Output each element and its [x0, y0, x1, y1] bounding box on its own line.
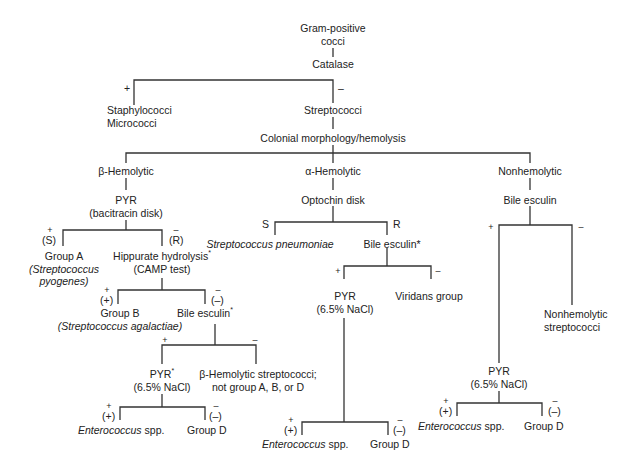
other-beta-line1: β-Hemolytic streptococci;	[199, 368, 316, 380]
staph-line2: Micrococci	[107, 117, 157, 129]
alpha-enterococcus-suffix: spp.	[326, 438, 349, 450]
non-pyr-neg-paren: (–)	[548, 405, 561, 418]
hemolysis-node: Colonial morphology/hemolysis	[260, 132, 405, 145]
non-group-d-node: Group D	[524, 420, 564, 433]
group-a-line3: pyogenes)	[39, 275, 88, 287]
beta-bile-esculin-node: Bile esculin*	[177, 307, 233, 320]
other-beta-strep-node: β-Hemolytic streptococci; not group A, B…	[199, 368, 316, 393]
staphylococci-node: Staphylococci Micrococci	[107, 104, 172, 129]
non-pyr-line1: PYR	[488, 365, 510, 377]
hippurate-line1: Hippurate hydrolysis	[113, 250, 208, 262]
alpha-group-d-node: Group D	[370, 438, 410, 451]
group-a-line1: Group A	[45, 250, 84, 262]
non-enterococcus-genus: Enterococcus	[418, 420, 482, 432]
beta-enterococcus-suffix: spp.	[142, 424, 165, 436]
staph-line1: Staphylococci	[107, 104, 172, 116]
pyr-line1: PYR	[115, 194, 137, 206]
catalase-node: Catalase	[312, 58, 353, 71]
beta-group-d-node: Group D	[187, 424, 227, 437]
non-enterococcus-node: Enterococcus spp.	[418, 420, 504, 433]
alpha-pyr-line1: PYR	[334, 290, 356, 302]
group-b-line2: (Streptococcus agalactiae)	[58, 320, 182, 332]
root-node: Gram-positive cocci	[300, 22, 365, 47]
nonhemolytic-line1: Nonhemolytic	[544, 308, 608, 320]
non-be-pos-sign: +	[488, 222, 493, 232]
catalase-positive-sign: +	[124, 82, 130, 95]
nonhemolytic-line2: streptococci	[544, 321, 600, 333]
catalase-negative-sign: –	[338, 82, 344, 95]
optochin-r-label: R	[393, 218, 401, 231]
beta-pyr-neg-paren: (–)	[209, 410, 222, 423]
optochin-s-label: S	[262, 218, 269, 231]
alpha-be-pos-sign: +	[335, 266, 340, 276]
pyr-line2: (bacitracin disk)	[89, 207, 163, 219]
viridans-node: Viridans group	[395, 290, 463, 303]
be-neg-sign: –	[252, 335, 257, 345]
non-bile-esculin-node: Bile esculin	[503, 194, 556, 207]
alpha-enterococcus-genus: Enterococcus	[262, 438, 326, 450]
alpha-enterococcus-node: Enterococcus spp.	[262, 438, 348, 451]
alpha-pyr-line2: (6.5% NaCl)	[316, 303, 373, 315]
other-beta-line2: not group A, B, or D	[212, 381, 304, 393]
beta-enterococcus-genus: Enterococcus	[78, 424, 142, 436]
root-line2: cocci	[321, 35, 345, 47]
group-a-line2: (Streptococcus	[29, 263, 99, 275]
nonhemolytic-node: Nonhemolytic	[498, 165, 562, 178]
beta-bile-esculin-asterisk: *	[230, 306, 233, 313]
beta-pyr-nacl-node: PYR* (6.5% NaCl)	[133, 368, 190, 393]
beta-pyr-pos-paren: (+)	[102, 410, 115, 423]
alpha-bile-esculin-node: Bile esculin*	[363, 238, 420, 251]
pneumoniae-label: Streptococcus pneumoniae	[206, 238, 333, 250]
group-b-node: Group B (Streptococcus agalactiae)	[58, 307, 182, 332]
non-pyr-node: PYR (6.5% NaCl)	[470, 365, 527, 390]
alpha-pyr-pos-paren: (+)	[284, 424, 297, 437]
root-line1: Gram-positive	[300, 22, 365, 34]
be-pos-sign: +	[162, 335, 167, 345]
beta-pyr-asterisk: *	[171, 367, 174, 374]
hippurate-node: Hippurate hydrolysis* (CAMP test)	[113, 250, 211, 275]
non-enterococcus-suffix: spp.	[482, 420, 505, 432]
hippurate-line2: (CAMP test)	[134, 263, 191, 275]
hip-pos-paren: (+)	[100, 294, 113, 307]
group-a-node: Group A (Streptococcus pyogenes)	[29, 250, 99, 288]
group-b-line1: Group B	[100, 307, 139, 319]
beta-pyr-line1: PYR	[150, 368, 172, 380]
pyr-bacitracin-node: PYR (bacitracin disk)	[89, 194, 163, 219]
alpha-pyr-neg-paren: (–)	[393, 424, 406, 437]
streptococci-node: Streptococci	[304, 104, 362, 117]
alpha-hemolytic-node: α-Hemolytic	[305, 165, 361, 178]
beta-pos-paren: (S)	[42, 234, 56, 247]
non-be-neg-sign: –	[578, 222, 583, 232]
non-pyr-pos-paren: (+)	[439, 405, 452, 418]
optochin-node: Optochin disk	[301, 194, 365, 207]
beta-enterococcus-node: Enterococcus spp.	[78, 424, 164, 437]
nonhemolytic-strep-node: Nonhemolytic streptococci	[544, 308, 608, 333]
beta-neg-paren: (R)	[169, 234, 184, 247]
beta-pyr-line2: (6.5% NaCl)	[133, 381, 190, 393]
beta-bile-esculin-label: Bile esculin	[177, 307, 230, 319]
s-pneumoniae-node: Streptococcus pneumoniae	[206, 238, 333, 251]
beta-hemolytic-node: β-Hemolytic	[98, 165, 154, 178]
hip-neg-paren: (–)	[211, 294, 224, 307]
non-pyr-line2: (6.5% NaCl)	[470, 378, 527, 390]
alpha-be-neg-sign: –	[435, 266, 440, 276]
alpha-pyr-node: PYR (6.5% NaCl)	[316, 290, 373, 315]
